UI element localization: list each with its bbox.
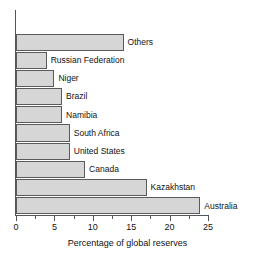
bar-row: Russian Federation [16, 51, 208, 69]
x-axis-minor-tick [35, 215, 36, 219]
bar-category-label: South Africa [74, 129, 120, 138]
x-axis-major-tick [16, 215, 17, 221]
bar-category-label: Niger [58, 74, 78, 83]
bar [16, 143, 70, 160]
bar-row: Niger [16, 69, 208, 87]
plot-area: OthersRussian FederationNigerBrazilNamib… [16, 10, 208, 215]
x-axis-major-tick [131, 215, 132, 221]
bar-row: Canada [16, 160, 208, 178]
bar [16, 197, 200, 214]
bar-category-label: Namibia [66, 111, 97, 120]
bar-chart: OthersRussian FederationNigerBrazilNamib… [0, 0, 255, 264]
x-axis-major-tick [170, 215, 171, 221]
x-axis-tick-label: 10 [88, 223, 98, 232]
x-axis-minor-tick [189, 215, 190, 219]
bar-row: South Africa [16, 124, 208, 142]
x-axis-major-tick [208, 215, 209, 221]
bar-row: United States [16, 142, 208, 160]
bar-category-label: Russian Federation [51, 56, 125, 65]
bar-row: Brazil [16, 88, 208, 106]
bar-category-label: Others [128, 38, 154, 47]
x-axis-tick-label: 5 [52, 223, 57, 232]
x-axis-tick-label: 15 [126, 223, 136, 232]
bar-category-label: Australia [204, 202, 237, 211]
bar [16, 34, 124, 51]
bar [16, 52, 47, 69]
bar-category-label: Kazakhstan [151, 183, 195, 192]
bar-row: Australia [16, 197, 208, 215]
x-axis-tick-label: 0 [13, 223, 18, 232]
bar [16, 106, 62, 123]
bar-category-label: United States [74, 147, 125, 156]
bar-category-label: Canada [89, 165, 119, 174]
bar-row: Others [16, 33, 208, 51]
x-axis-minor-tick [74, 215, 75, 219]
bar-category-label: Brazil [66, 92, 87, 101]
bar [16, 124, 70, 141]
x-axis-minor-tick [150, 215, 151, 219]
bar [16, 70, 54, 87]
x-axis-tick-labels: 0510152025 [16, 223, 208, 237]
x-axis-title: Percentage of global reserves [0, 238, 255, 248]
x-axis-tick-label: 25 [203, 223, 213, 232]
bar-row: Kazakhstan [16, 179, 208, 197]
x-axis-major-tick [54, 215, 55, 221]
bar [16, 88, 62, 105]
x-axis-tick-label: 20 [165, 223, 175, 232]
x-axis-minor-tick [112, 215, 113, 219]
bar [16, 179, 147, 196]
bar [16, 161, 85, 178]
x-axis-major-tick [93, 215, 94, 221]
bar-row: Namibia [16, 106, 208, 124]
bar-series: OthersRussian FederationNigerBrazilNamib… [16, 33, 208, 215]
